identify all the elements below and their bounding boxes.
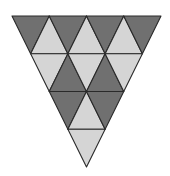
inverted-triangle-diagram [0,0,170,176]
triangle-cell-r3-c0-light [68,129,105,167]
triangle-pattern-figure [0,0,170,176]
